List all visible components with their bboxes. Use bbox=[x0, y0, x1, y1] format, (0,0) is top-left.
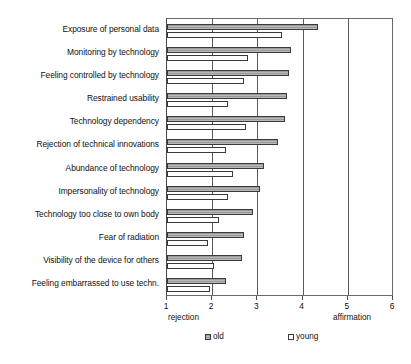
bar-group bbox=[167, 181, 392, 204]
category-label: Exposure of personal data bbox=[0, 25, 159, 34]
bar-group bbox=[167, 89, 392, 112]
category-label: Technology too close to own body bbox=[0, 210, 159, 219]
legend-label-old: old bbox=[213, 332, 224, 341]
bar-young bbox=[167, 32, 282, 38]
bar-group bbox=[167, 158, 392, 181]
tick-label-4: 4 bbox=[293, 301, 311, 311]
category-label: Technology dependency bbox=[0, 117, 159, 126]
x-axis-tick-labels: 123456 bbox=[0, 301, 411, 313]
bar-young bbox=[167, 78, 244, 84]
bar-young bbox=[167, 217, 219, 223]
bar-young bbox=[167, 101, 228, 107]
bar-group bbox=[167, 135, 392, 158]
tick-label-5: 5 bbox=[338, 301, 356, 311]
category-label: Feeling embarrassed to use techn. bbox=[0, 279, 159, 288]
bar-group bbox=[167, 65, 392, 88]
tick-mark-6 bbox=[392, 296, 393, 300]
category-label: Visibility of the device for others bbox=[0, 256, 159, 265]
bar-chart: Exposure of personal dataMonitoring by t… bbox=[0, 0, 411, 364]
category-label-column: Exposure of personal dataMonitoring by t… bbox=[0, 18, 163, 296]
bar-young bbox=[167, 240, 208, 246]
chart-legend: old young bbox=[0, 332, 411, 346]
bar-old bbox=[167, 47, 291, 53]
bar-old bbox=[167, 116, 285, 122]
bar-old bbox=[167, 255, 242, 261]
category-label: Monitoring by technology bbox=[0, 48, 159, 57]
bar-old bbox=[167, 232, 244, 238]
legend-swatch-young-icon bbox=[288, 334, 294, 340]
bar-old bbox=[167, 139, 278, 145]
bar-young bbox=[167, 147, 226, 153]
tick-mark-4 bbox=[302, 296, 303, 300]
legend-label-young: young bbox=[296, 332, 318, 341]
tick-mark-5 bbox=[347, 296, 348, 300]
category-label: Impersonality of technology bbox=[0, 187, 159, 196]
tick-mark-1 bbox=[166, 296, 167, 300]
bar-old bbox=[167, 209, 253, 215]
bar-old bbox=[167, 93, 287, 99]
bar-old bbox=[167, 70, 289, 76]
bar-old bbox=[167, 24, 318, 30]
category-label: Abundance of technology bbox=[0, 164, 159, 173]
bar-young bbox=[167, 194, 228, 200]
legend-entry-old: old bbox=[205, 332, 224, 341]
axis-anchor-high: affirmation bbox=[333, 313, 371, 322]
bar-old bbox=[167, 186, 260, 192]
bar-group bbox=[167, 274, 392, 297]
tick-label-2: 2 bbox=[202, 301, 220, 311]
bar-young bbox=[167, 171, 233, 177]
tick-label-1: 1 bbox=[157, 301, 175, 311]
bar-young bbox=[167, 55, 248, 61]
bar-group bbox=[167, 42, 392, 65]
bar-group bbox=[167, 251, 392, 274]
category-label: Feeling controlled by technology bbox=[0, 71, 159, 80]
bar-young bbox=[167, 263, 214, 269]
bar-young bbox=[167, 286, 210, 292]
tick-mark-3 bbox=[256, 296, 257, 300]
axis-anchor-low: rejection bbox=[168, 313, 199, 322]
bar-group bbox=[167, 19, 392, 42]
category-label: Rejection of technical innovations bbox=[0, 140, 159, 149]
category-label: Restrained usability bbox=[0, 94, 159, 103]
bar-old bbox=[167, 163, 264, 169]
tick-label-6: 6 bbox=[383, 301, 401, 311]
tick-label-3: 3 bbox=[247, 301, 265, 311]
tick-mark-2 bbox=[211, 296, 212, 300]
legend-swatch-old-icon bbox=[205, 334, 211, 340]
bar-young bbox=[167, 124, 246, 130]
bar-group bbox=[167, 228, 392, 251]
plot-area bbox=[166, 18, 393, 296]
legend-entry-young: young bbox=[288, 332, 318, 341]
bar-group bbox=[167, 204, 392, 227]
category-label: Fear of radiation bbox=[0, 233, 159, 242]
bar-group bbox=[167, 112, 392, 135]
bar-old bbox=[167, 278, 226, 284]
